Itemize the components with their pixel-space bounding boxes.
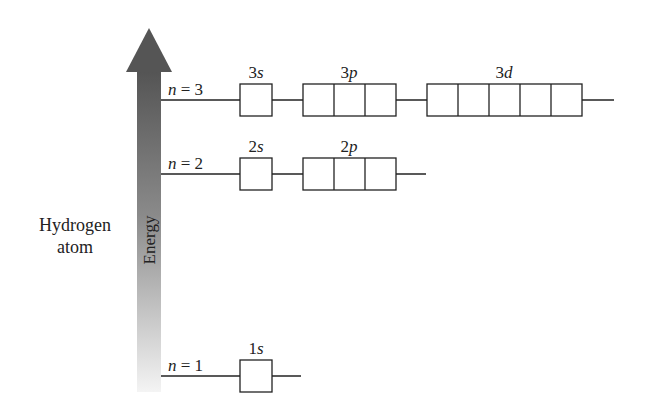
subshell-label-3d: 3d	[496, 63, 514, 82]
level-label-n1: n = 1	[168, 356, 203, 375]
orbital-energy-diagram: Hydrogen atom Energy	[0, 0, 651, 411]
subshell-label-3s: 3s	[248, 63, 264, 82]
subshell-label-1s: 1s	[248, 339, 264, 358]
energy-axis-label: Energy	[140, 215, 159, 264]
subshell-label-2p: 2p	[341, 137, 358, 156]
diagram-canvas: Energy n = 3 3s 3p 3d n = 2 2s 2p	[0, 0, 651, 411]
level-n3	[161, 84, 614, 116]
subshell-label-2s: 2s	[248, 137, 264, 156]
subshell-label-3p: 3p	[341, 63, 358, 82]
energy-arrow-icon	[126, 28, 172, 392]
level-label-n3: n = 3	[168, 80, 203, 99]
level-label-n2: n = 2	[168, 154, 203, 173]
